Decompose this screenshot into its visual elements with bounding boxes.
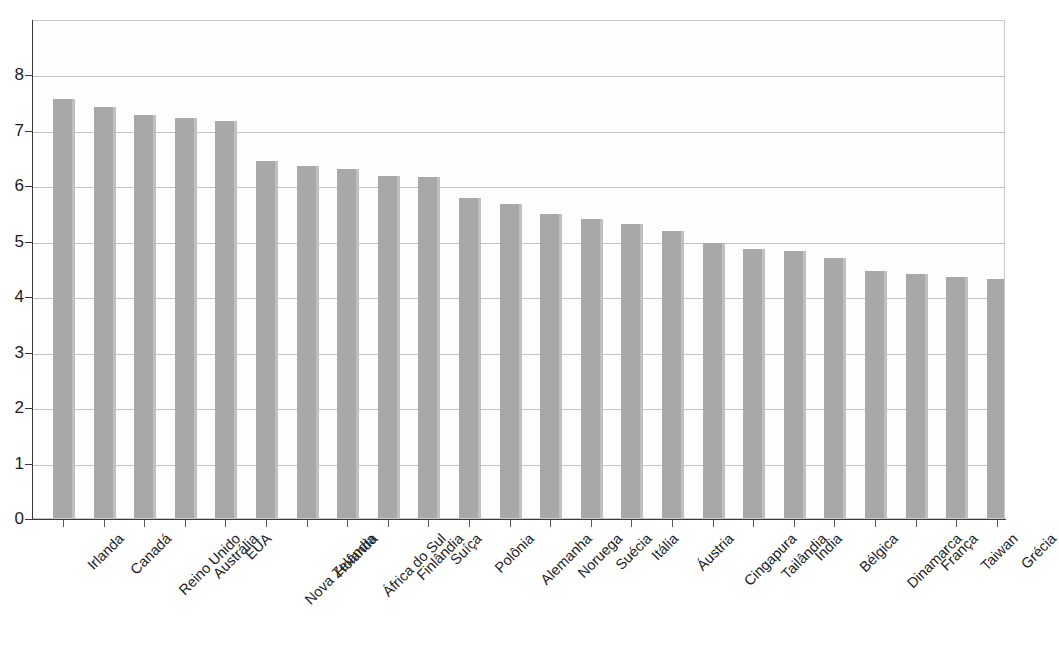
y-tick-mark — [25, 519, 32, 520]
x-tick-mark — [834, 520, 835, 527]
bar — [824, 258, 846, 518]
y-tick-mark — [25, 297, 32, 298]
bar — [256, 161, 278, 518]
bar — [378, 176, 400, 518]
y-tick-mark — [25, 186, 32, 187]
x-tick-label: Taiwan — [978, 531, 1021, 574]
x-tick-label: Polônia — [492, 531, 537, 576]
bar — [540, 214, 562, 518]
x-tick-mark — [510, 520, 511, 527]
x-tick-label: Áustria — [694, 531, 737, 574]
y-tick-label: 5 — [0, 233, 24, 250]
x-tick-mark — [469, 520, 470, 527]
x-tick-mark — [388, 520, 389, 527]
y-tick-label: 1 — [0, 455, 24, 472]
bar — [946, 277, 968, 518]
y-tick-label: 0 — [0, 510, 24, 527]
y-tick-label: 7 — [0, 122, 24, 139]
y-tick-mark — [25, 75, 32, 76]
x-tick-label: Bélgica — [857, 531, 901, 575]
x-tick-label: Canadá — [127, 531, 174, 578]
x-tick-mark — [875, 520, 876, 527]
y-tick-mark — [25, 408, 32, 409]
x-tick-mark — [266, 520, 267, 527]
y-tick-label: 8 — [0, 66, 24, 83]
x-tick-mark — [672, 520, 673, 527]
x-tick-mark — [550, 520, 551, 527]
bars-series — [33, 21, 1004, 518]
bar — [906, 274, 928, 518]
x-tick-mark — [225, 520, 226, 527]
x-tick-mark — [307, 520, 308, 527]
y-tick-label: 4 — [0, 288, 24, 305]
x-tick-label: Irlanda — [85, 531, 127, 573]
y-tick-mark — [25, 131, 32, 132]
bar — [459, 198, 481, 518]
x-tick-mark — [956, 520, 957, 527]
x-tick-mark — [591, 520, 592, 527]
x-tick-mark — [631, 520, 632, 527]
x-tick-label: Grécia — [1018, 531, 1059, 572]
y-tick-label: 3 — [0, 344, 24, 361]
bar — [94, 107, 116, 518]
y-tick-label: 6 — [0, 177, 24, 194]
x-tick-label: Itália — [649, 531, 681, 563]
x-axis-line — [32, 519, 1006, 520]
x-tick-mark — [753, 520, 754, 527]
y-tick-label: 2 — [0, 399, 24, 416]
bar — [215, 121, 237, 518]
y-tick-mark — [25, 353, 32, 354]
y-tick-mark — [25, 464, 32, 465]
x-tick-mark — [144, 520, 145, 527]
x-tick-label: Holanda — [331, 531, 380, 580]
plot-area — [32, 20, 1005, 519]
bar — [500, 204, 522, 518]
bar — [703, 243, 725, 518]
x-tick-mark — [104, 520, 105, 527]
bar — [743, 249, 765, 518]
x-tick-mark — [428, 520, 429, 527]
y-axis-line — [32, 20, 33, 520]
x-tick-mark — [63, 520, 64, 527]
x-tick-mark — [347, 520, 348, 527]
x-tick-mark — [713, 520, 714, 527]
x-tick-mark — [997, 520, 998, 527]
bar — [784, 251, 806, 518]
bar — [418, 177, 440, 518]
bar — [581, 219, 603, 518]
x-tick-mark — [185, 520, 186, 527]
bar — [621, 224, 643, 518]
x-tick-mark — [794, 520, 795, 527]
y-tick-mark — [25, 242, 32, 243]
bar — [53, 99, 75, 518]
bar — [175, 118, 197, 518]
bar — [987, 279, 1005, 518]
bar — [134, 115, 156, 518]
bar — [297, 166, 319, 518]
bar — [662, 231, 684, 518]
bar — [865, 271, 887, 518]
x-tick-mark — [916, 520, 917, 527]
caption-artifact — [0, 630, 1023, 646]
bar — [337, 169, 359, 518]
